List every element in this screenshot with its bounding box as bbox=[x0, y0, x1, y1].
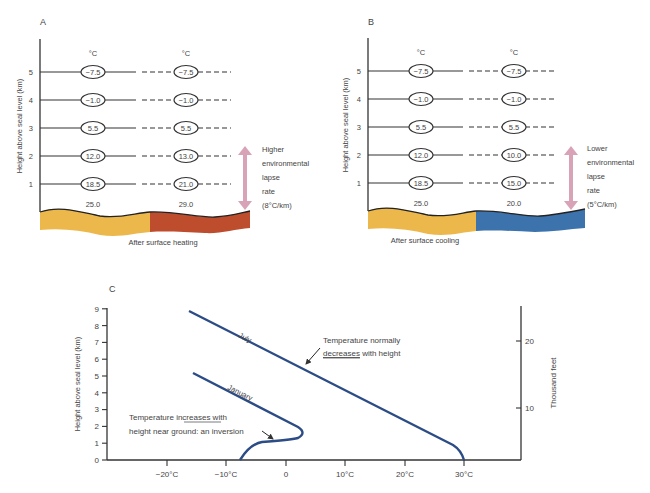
temp-value: −1.0 bbox=[86, 96, 101, 105]
x-tick-label: 30°C bbox=[455, 470, 473, 479]
lapse-text: environmental bbox=[587, 158, 634, 167]
panel-b-y-axis-label: Height above seal level (km) bbox=[341, 77, 350, 172]
level-label: 5 bbox=[357, 67, 361, 76]
inversion-annotation-arrow bbox=[262, 431, 273, 439]
y-ticks bbox=[102, 309, 107, 460]
temp-value: 18.5 bbox=[86, 180, 101, 189]
y-tick-label: 3 bbox=[95, 405, 100, 414]
inversion-annotation-line2: height near ground: an inversion bbox=[129, 427, 244, 436]
panel-a-caption: After surface heating bbox=[128, 238, 197, 247]
panel-b-caption: After surface cooling bbox=[391, 236, 459, 245]
panel-b-col1-unit: °C bbox=[417, 48, 426, 57]
level-label: 5 bbox=[29, 68, 33, 77]
temp-value: −7.5 bbox=[179, 68, 194, 77]
panel-c-chart: C Height above seal level (km) Thousand … bbox=[73, 284, 558, 479]
lapse-text: rate bbox=[587, 186, 600, 195]
surface-warm-land bbox=[368, 208, 476, 235]
figure-canvas: A Height above seal level (km) °C °C 5 −… bbox=[0, 0, 650, 493]
panel-b-levels: 5 −7.5 −7.5 4 −1.0 −1.0 3 5.5 5.5 2 bbox=[357, 65, 557, 190]
panel-b-lapse-arrow bbox=[564, 146, 578, 210]
x-tick-label: −20°C bbox=[156, 470, 179, 479]
panel-b-letter: B bbox=[368, 17, 374, 27]
normal-annotation-line2: decreases with height bbox=[323, 349, 401, 358]
lapse-text: lapse bbox=[262, 173, 280, 182]
panel-a-lapse-arrow bbox=[238, 146, 252, 210]
temp-value: 10.0 bbox=[507, 151, 522, 160]
x-tick-label: 20°C bbox=[396, 470, 414, 479]
x-ticks bbox=[167, 460, 464, 466]
temp-value: 12.0 bbox=[86, 152, 101, 161]
level-label: 1 bbox=[357, 179, 361, 188]
temp-value: 12.0 bbox=[414, 151, 429, 160]
temp-value: 5.5 bbox=[181, 124, 191, 133]
y-tick-label: 1 bbox=[95, 439, 100, 448]
temp-value: 5.5 bbox=[88, 124, 98, 133]
lapse-text: (5°C/km) bbox=[587, 200, 617, 209]
panel-b-col2-unit: °C bbox=[510, 48, 519, 57]
right-axis-label: Thousand feet bbox=[549, 357, 558, 409]
temp-value: 5.5 bbox=[416, 123, 426, 132]
panel-a: A Height above seal level (km) °C °C 5 −… bbox=[15, 17, 309, 247]
temp-value: −7.5 bbox=[414, 67, 429, 76]
temp-value: −7.5 bbox=[507, 67, 522, 76]
temp-value: 15.0 bbox=[507, 179, 522, 188]
january-label: January bbox=[226, 383, 254, 403]
panel-a-col1-unit: °C bbox=[89, 49, 98, 58]
lapse-text: rate bbox=[262, 187, 275, 196]
temp-value: −1.0 bbox=[179, 96, 194, 105]
lapse-text: Lower bbox=[587, 144, 608, 153]
x-tick-label: 10°C bbox=[336, 470, 354, 479]
level-label: 4 bbox=[29, 96, 33, 105]
panel-a-y-axis-label: Height above seal level (km) bbox=[15, 78, 24, 173]
level-label: 1 bbox=[29, 180, 33, 189]
panel-a-surface-left: 25.0 bbox=[86, 200, 101, 209]
y-tick-label: 2 bbox=[95, 422, 100, 431]
x-tick-label: −10°C bbox=[215, 470, 238, 479]
panel-a-col2-unit: °C bbox=[182, 49, 191, 58]
y-tick-label: 0 bbox=[95, 456, 100, 465]
y-tick-label: 8 bbox=[95, 322, 100, 331]
normal-annotation-line1: Temperature normally bbox=[323, 336, 400, 345]
panel-a-surface-right: 29.0 bbox=[179, 200, 194, 209]
lapse-text: Higher bbox=[262, 145, 285, 154]
level-label: 2 bbox=[29, 152, 33, 161]
level-label: 3 bbox=[29, 124, 33, 133]
level-label: 3 bbox=[357, 123, 361, 132]
temp-value: −1.0 bbox=[414, 95, 429, 104]
lapse-text: lapse bbox=[587, 172, 605, 181]
lapse-text: (8°C/km) bbox=[262, 201, 292, 210]
right-tick-label: 20 bbox=[525, 337, 534, 346]
y-tick-label: 4 bbox=[95, 389, 100, 398]
lapse-text: environmental bbox=[262, 159, 309, 168]
x-tick-label: 0 bbox=[284, 470, 289, 479]
normal-annotation-arrow bbox=[306, 348, 320, 364]
y-tick-label: 5 bbox=[95, 372, 100, 381]
panel-c-letter: C bbox=[109, 284, 116, 294]
level-label: 2 bbox=[357, 151, 361, 160]
temp-value: 5.5 bbox=[509, 123, 519, 132]
right-tick-label: 10 bbox=[525, 404, 534, 413]
panel-b-surface-left: 25.0 bbox=[414, 199, 429, 208]
panel-a-levels: 5 −7.5 −7.5 4 −1.0 −1.0 3 5.5 5.5 2 bbox=[29, 66, 231, 191]
panel-a-letter: A bbox=[40, 17, 46, 27]
temp-value: 13.0 bbox=[179, 152, 194, 161]
temp-value: −1.0 bbox=[507, 95, 522, 104]
temp-value: −7.5 bbox=[86, 68, 101, 77]
y-tick-label: 9 bbox=[95, 305, 100, 314]
temp-value: 21.0 bbox=[179, 180, 194, 189]
y-axis-label: Height above seal level (km) bbox=[73, 336, 82, 431]
inversion-annotation-line1: Temperature increases with bbox=[129, 413, 227, 422]
surface-warm-land bbox=[40, 209, 150, 236]
y-tick-label: 6 bbox=[95, 355, 100, 364]
level-label: 4 bbox=[357, 95, 361, 104]
y-tick-label: 7 bbox=[95, 338, 100, 347]
panel-b: B Height above seal level (km) °C °C 5 −… bbox=[341, 17, 634, 245]
panel-b-surface-right: 20.0 bbox=[507, 199, 522, 208]
temp-value: 18.5 bbox=[414, 179, 429, 188]
